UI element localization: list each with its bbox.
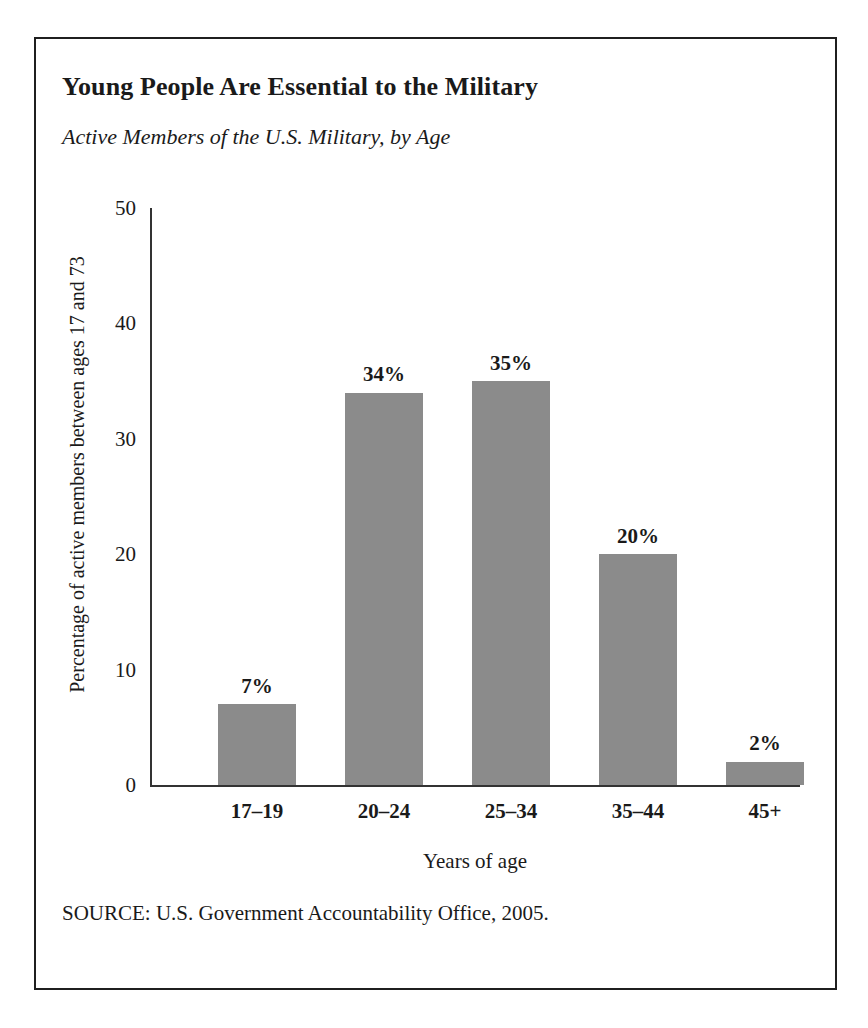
plot-area: 0 10 20 30 40 50 7% 17–19 34% 20–24 35% … xyxy=(150,208,800,785)
bar-value-label: 35% xyxy=(472,351,550,376)
bar-rect[interactable] xyxy=(345,393,423,785)
y-axis-tick-label: 30 xyxy=(115,426,136,451)
figure-frame: Young People Are Essential to the Milita… xyxy=(34,37,837,990)
source-note: SOURCE: U.S. Government Accountability O… xyxy=(62,901,549,926)
x-axis-tick-label: 20–24 xyxy=(331,799,437,824)
bar-value-label: 20% xyxy=(599,524,677,549)
figure-title: Young People Are Essential to the Milita… xyxy=(62,72,538,102)
y-axis-tick-label: 40 xyxy=(115,311,136,336)
bar-rect[interactable] xyxy=(726,762,804,785)
x-axis-tick-label: 17–19 xyxy=(204,799,310,824)
bar-rect[interactable] xyxy=(472,381,550,785)
bar-rect[interactable] xyxy=(599,554,677,785)
bar-series: 7% 17–19 34% 20–24 35% 25–34 20% 35–44 2 xyxy=(152,208,800,785)
x-axis-tick-label: 25–34 xyxy=(458,799,564,824)
bar-group[interactable]: 35% 25–34 xyxy=(472,208,550,785)
figure-subtitle: Active Members of the U.S. Military, by … xyxy=(62,124,450,150)
bar-group[interactable]: 2% 45+ xyxy=(726,208,804,785)
x-axis-tick-label: 45+ xyxy=(712,799,818,824)
bar-group[interactable]: 34% 20–24 xyxy=(345,208,423,785)
bar-rect[interactable] xyxy=(218,704,296,785)
bar-group[interactable]: 20% 35–44 xyxy=(599,208,677,785)
bar-value-label: 7% xyxy=(218,674,296,699)
y-axis-title: Percentage of active members between age… xyxy=(66,185,89,765)
bar-value-label: 2% xyxy=(726,731,804,756)
x-axis-title: Years of age xyxy=(150,849,800,874)
bar-group[interactable]: 7% 17–19 xyxy=(218,208,296,785)
x-axis-tick-label: 35–44 xyxy=(585,799,691,824)
y-axis-tick-label: 50 xyxy=(115,196,136,221)
y-axis-tick-label: 0 xyxy=(126,773,137,798)
bar-value-label: 34% xyxy=(345,362,423,387)
y-axis-tick-label: 20 xyxy=(115,542,136,567)
y-axis-tick-label: 10 xyxy=(115,657,136,682)
x-axis-line xyxy=(150,785,800,787)
